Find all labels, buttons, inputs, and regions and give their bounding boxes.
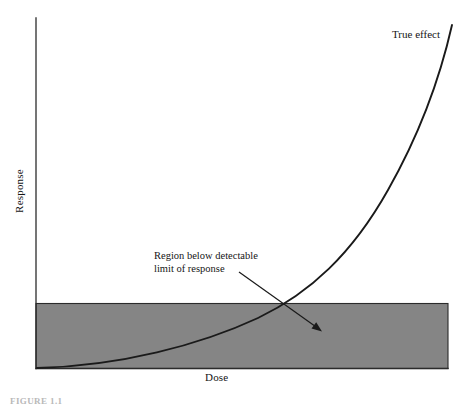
annotation-line-1: Region below detectable	[154, 250, 258, 263]
true-effect-label: True effect	[392, 28, 440, 40]
y-axis-label: Response	[13, 161, 25, 221]
detection-limit-annotation: Region below detectable limit of respons…	[154, 250, 258, 275]
figure-caption: FIGURE 1.1	[10, 396, 63, 406]
figure-container: Response Dose True effect Region below d…	[0, 0, 471, 406]
annotation-line-2: limit of response	[154, 263, 258, 276]
dose-response-plot	[0, 0, 471, 406]
shaded-detection-limit-region	[36, 304, 448, 369]
x-axis-label: Dose	[205, 371, 228, 383]
